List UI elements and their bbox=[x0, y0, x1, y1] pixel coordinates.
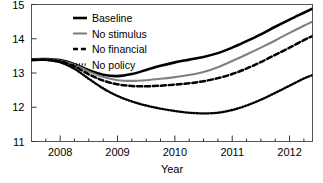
legend-item[interactable]: No stimulus bbox=[73, 28, 147, 40]
legend-label: No policy bbox=[92, 59, 136, 71]
y-tick-label: 13 bbox=[12, 67, 24, 79]
x-tick-label: 2008 bbox=[48, 146, 72, 158]
legend-item[interactable]: No financial bbox=[73, 43, 147, 55]
y-axis: 1112131415 bbox=[12, 0, 36, 148]
x-axis-title: Year bbox=[161, 163, 184, 175]
x-tick-label: 2009 bbox=[105, 146, 129, 158]
series-group bbox=[32, 9, 313, 114]
legend-item[interactable]: Baseline bbox=[73, 12, 132, 24]
y-tick-label: 11 bbox=[13, 136, 24, 148]
legend-label: Baseline bbox=[92, 12, 132, 24]
legend: BaselineNo stimulusNo financialNo policy bbox=[73, 12, 147, 71]
plot-frame bbox=[32, 5, 313, 142]
x-tick-label: 2012 bbox=[277, 146, 301, 158]
x-tick-label: 2011 bbox=[220, 146, 244, 158]
y-tick-label: 15 bbox=[12, 0, 24, 11]
line-chart: 111213141520082009201020112012YearBaseli… bbox=[0, 0, 323, 183]
y-tick-label: 14 bbox=[12, 33, 24, 45]
y-tick-label: 12 bbox=[12, 101, 24, 113]
legend-label: No stimulus bbox=[92, 28, 147, 40]
x-axis: 20082009201020112012 bbox=[46, 136, 304, 158]
legend-label: No financial bbox=[92, 43, 147, 55]
x-tick-label: 2010 bbox=[163, 146, 187, 158]
chart-figure: 111213141520082009201020112012YearBaseli… bbox=[0, 0, 323, 183]
series-line-no-policy bbox=[32, 60, 313, 114]
